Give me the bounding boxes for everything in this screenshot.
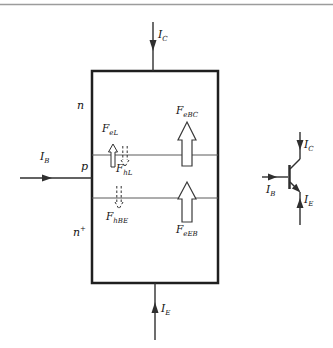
region-p-symbol: p xyxy=(81,160,88,173)
emitter-current-label: IE xyxy=(161,303,170,319)
symbol-collector-current-arrowhead xyxy=(297,140,304,150)
electron-base-collector-flux-subscript: eBC xyxy=(183,111,198,119)
hole-base-emitter-flux-subscript: hBE xyxy=(113,217,128,225)
base-current-subscript: B xyxy=(44,157,49,165)
device-body-outline xyxy=(92,71,218,283)
electron-emitter-base-flux-subscript: eEB xyxy=(183,230,197,238)
symbol-emitter-current-arrowhead xyxy=(297,198,304,208)
symbol-collector-current-subscript: C xyxy=(308,145,313,153)
region-label-n: n xyxy=(77,96,84,112)
emitter-current-arrowhead xyxy=(152,302,159,313)
symbol-emitter-current-label: IE xyxy=(304,194,313,210)
region-label-p: p xyxy=(81,157,88,173)
electron-emitter-base-flux-label: FeEB xyxy=(176,223,198,240)
collector-current-arrowhead xyxy=(150,40,157,51)
symbol-base-current-label: IB xyxy=(266,184,276,200)
base-lead xyxy=(20,175,92,182)
electron-leak-flux-subscript: eL xyxy=(109,129,118,137)
hole-leak-flux-subscript: hL xyxy=(123,169,132,177)
diagram-artwork xyxy=(0,0,333,348)
collector-current-label: IC xyxy=(158,29,168,45)
symbol-base-current-subscript: B xyxy=(270,190,275,198)
base-current-arrowhead xyxy=(42,175,52,182)
symbol-base-current-arrowhead xyxy=(268,174,277,181)
collector-current-subscript: C xyxy=(162,35,167,43)
electron-leak-flux-label: FeL xyxy=(102,122,118,139)
symbol-collector-branch xyxy=(290,159,300,169)
symbol-collector-current-label: IC xyxy=(304,139,314,155)
emitter-current-subscript: E xyxy=(165,309,170,317)
region-n-symbol: n xyxy=(77,99,84,112)
electron-emitter-base-flux-arrow xyxy=(178,182,196,222)
transistor-symbol xyxy=(262,132,304,225)
hole-base-emitter-flux-label: FhBE xyxy=(106,210,128,227)
base-current-label: IB xyxy=(40,151,50,167)
bjt-flux-diagram: IC IB IE n p n+ FeL FhL FhBE FeBC FeEB I… xyxy=(0,0,333,348)
hole-leak-flux-label: FhL xyxy=(116,162,132,179)
collector-lead xyxy=(150,22,157,71)
electron-base-collector-flux-label: FeBC xyxy=(176,104,198,121)
electron-base-collector-flux-arrow xyxy=(178,122,196,166)
region-n-plus-superscript: + xyxy=(80,225,86,233)
symbol-emitter-current-subscript: E xyxy=(308,200,313,208)
emitter-lead xyxy=(152,283,159,340)
region-label-n-plus: n+ xyxy=(73,223,86,239)
